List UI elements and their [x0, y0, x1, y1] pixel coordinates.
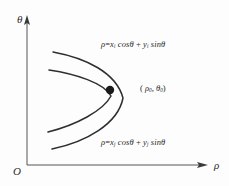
eq-j-x-subscript: j — [114, 141, 116, 147]
point-open-paren: ( — [140, 83, 143, 93]
equation-label-j: ρ=xj cosθ + yj sinθ — [101, 138, 165, 147]
theta-axis-label: θ — [17, 14, 22, 25]
eq-i-x-subscript: i — [114, 43, 116, 49]
intersection-point-label: ( ρ0, θ0) — [140, 84, 166, 93]
eq-i-y-subscript: i — [147, 43, 149, 49]
eq-j-cos: cos — [118, 137, 130, 147]
equation-label-i: ρ=xi cosθ + yi sinθ — [101, 40, 165, 49]
eq-i-cos: cos — [118, 39, 130, 49]
eq-j-theta: θ — [129, 137, 133, 147]
eq-i-theta: θ — [129, 39, 133, 49]
intersection-point-marker — [106, 86, 114, 94]
eq-j-y-subscript: j — [147, 141, 149, 147]
eq-i-theta2: θ — [161, 39, 165, 49]
eq-j-theta2: θ — [161, 137, 165, 147]
eq-j-sin: sin — [151, 137, 161, 147]
eq-i-plus: + — [136, 39, 141, 49]
origin-label: O — [13, 166, 21, 177]
point-comma: , — [152, 83, 154, 93]
rho-axis-label: ρ — [214, 160, 219, 171]
point-close-paren: ) — [163, 83, 166, 93]
eq-j-plus: + — [136, 137, 141, 147]
hough-parameter-space-figure — [0, 0, 229, 186]
curve-inner-j — [48, 70, 111, 132]
curve-outer-i — [52, 52, 123, 149]
eq-i-sin: sin — [151, 39, 161, 49]
